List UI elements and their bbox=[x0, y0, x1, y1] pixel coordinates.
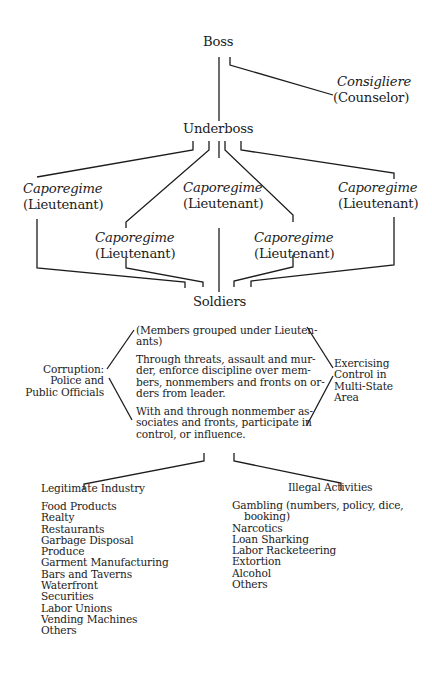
legitimate-industry-heading: Legitimate Industry bbox=[41, 483, 145, 494]
description-paragraph: (Members grouped under Lieuten- ants) bbox=[136, 325, 325, 348]
underboss-capo1-line bbox=[37, 141, 193, 177]
caporegime-title: Caporegime bbox=[254, 231, 333, 244]
corruption-line: Police and bbox=[25, 375, 104, 386]
control-line: Area bbox=[334, 392, 393, 403]
description-paragraph: Through threats, assault and mur- der, e… bbox=[136, 354, 325, 399]
illegal-activities-list: Gambling (numbers, policy, dice, booking… bbox=[232, 500, 404, 590]
description-line: ders from leader. bbox=[136, 388, 325, 399]
list-item: Others bbox=[232, 579, 404, 590]
list-item: Securities bbox=[41, 591, 169, 602]
corruption-label: Corruption: Police and Public Officials bbox=[25, 364, 104, 398]
list-item: Others bbox=[41, 625, 169, 636]
caporegime-subtitle: (Lieutenant) bbox=[95, 247, 175, 260]
list-item: booking) bbox=[232, 511, 404, 522]
corruption-lower-line bbox=[109, 378, 132, 420]
caporegime-subtitle: (Lieutenant) bbox=[338, 197, 418, 210]
caporegime-subtitle: (Lieutenant) bbox=[183, 197, 263, 210]
consigliere-subtitle: (Counselor) bbox=[333, 91, 409, 104]
consigliere-title: Consigliere bbox=[337, 75, 411, 88]
control-label: Exercising Control in Multi-State Area bbox=[334, 358, 393, 403]
list-item: Realty bbox=[41, 512, 169, 523]
description-paragraph: With and through nonmember as- sociates … bbox=[136, 406, 325, 417]
description-line: (Members grouped under Lieuten- bbox=[136, 325, 325, 336]
caporegime-title: Caporegime bbox=[23, 182, 102, 195]
soldier-description: (Members grouped under Lieuten- ants) Th… bbox=[136, 325, 325, 417]
caporegime-title: Caporegime bbox=[338, 181, 417, 194]
underboss-capo5-line bbox=[241, 141, 394, 179]
legitimate-industry-list: Food Products Realty Restaurants Garbage… bbox=[41, 501, 169, 637]
caporegime-title: Caporegime bbox=[183, 181, 262, 194]
caporegime-subtitle: (Lieutenant) bbox=[254, 247, 334, 260]
boss-consigliere-line bbox=[230, 57, 333, 95]
caporegime-subtitle: (Lieutenant) bbox=[23, 198, 103, 211]
description-line: sociates and fronts, participate in bbox=[136, 417, 325, 428]
control-line: Control in bbox=[334, 369, 393, 380]
description-line: control, or influence. bbox=[136, 429, 325, 440]
caporegime-title: Caporegime bbox=[95, 231, 174, 244]
underboss-label: Underboss bbox=[183, 122, 253, 135]
soldiers-label: Soldiers bbox=[193, 295, 246, 308]
description-line: ants) bbox=[136, 336, 325, 347]
corruption-upper-line bbox=[107, 330, 134, 369]
boss-label: Boss bbox=[203, 35, 233, 48]
illegal-activities-heading: Illegal Activities bbox=[288, 482, 372, 493]
capo2-soldiers-line bbox=[126, 258, 203, 287]
corruption-line: Public Officials bbox=[25, 387, 104, 398]
